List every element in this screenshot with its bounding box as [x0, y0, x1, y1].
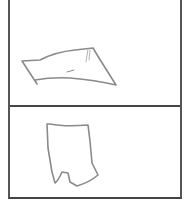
quadrilateral-sketch — [22, 48, 116, 85]
shorts-sketch — [47, 124, 98, 186]
sketch-layer — [0, 0, 193, 202]
